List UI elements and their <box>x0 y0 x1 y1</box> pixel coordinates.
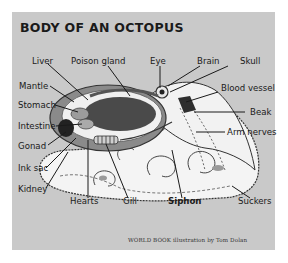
label-suckers: Suckers <box>238 197 272 206</box>
label-skull: Skull <box>240 57 260 66</box>
label-gonad: Gonad <box>18 142 46 151</box>
label-beak: Beak <box>250 108 271 117</box>
liver-shape <box>84 97 156 131</box>
label-poison-gland: Poison gland <box>71 57 125 66</box>
label-kidney: Kidney <box>18 185 47 194</box>
label-ink-sac: Ink sac <box>18 164 48 173</box>
label-eye: Eye <box>150 57 166 66</box>
label-liver: Liver <box>32 57 53 66</box>
label-gill: Gill <box>123 197 137 206</box>
gonad-shape <box>58 119 74 137</box>
label-arm-nerves: Arm nerves <box>227 128 276 137</box>
illustration-credit: WORLD BOOK illustration by Tom Dolan <box>128 237 247 243</box>
label-mantle: Mantle <box>19 82 48 91</box>
label-blood-vessel: Blood vessel <box>221 84 275 93</box>
label-brain: Brain <box>197 57 220 66</box>
label-hearts: Hearts <box>70 197 98 206</box>
label-stomach: Stomach <box>18 101 56 110</box>
label-siphon: Siphon <box>168 197 201 206</box>
label-intestine: Intestine <box>18 122 56 131</box>
